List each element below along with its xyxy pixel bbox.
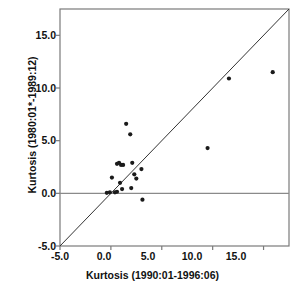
data-point (139, 167, 143, 171)
data-point (130, 161, 134, 165)
data-point (118, 181, 122, 185)
data-point (227, 76, 231, 80)
data-point (115, 190, 119, 194)
data-point (121, 163, 125, 167)
data-point (205, 146, 209, 150)
plot-area (0, 0, 305, 289)
data-point (128, 132, 132, 136)
data-point (108, 190, 112, 194)
data-point (140, 198, 144, 202)
data-point (132, 172, 136, 176)
data-point (120, 187, 124, 191)
data-point (271, 70, 275, 74)
data-point (129, 186, 133, 190)
data-point (124, 122, 128, 126)
data-point (134, 176, 138, 180)
data-point (110, 175, 114, 179)
scatter-plot-figure: Kurtosis (1980:01*-1989:12) Kurtosis (19… (0, 0, 305, 289)
